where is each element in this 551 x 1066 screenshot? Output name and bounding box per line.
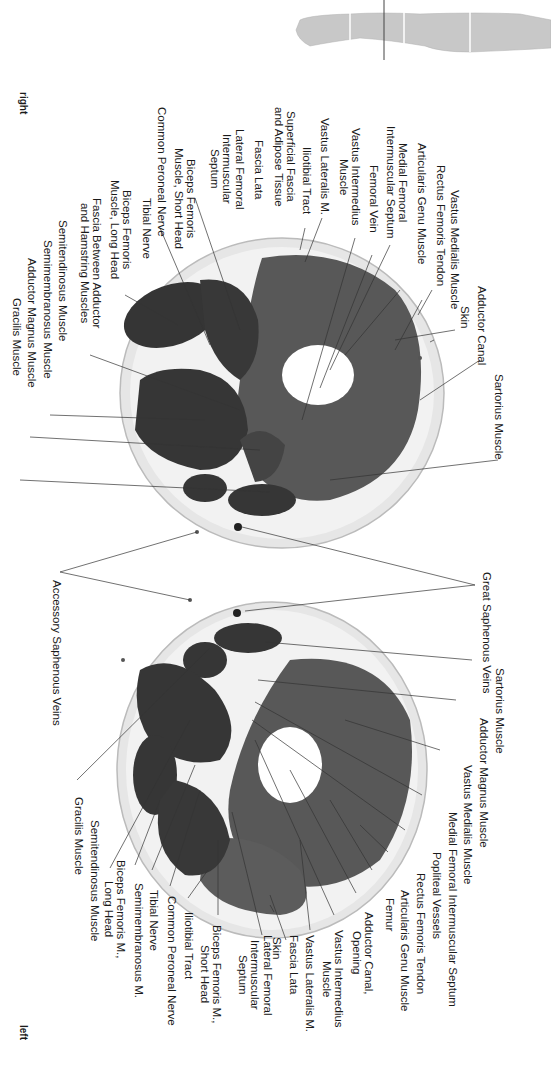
- label-lower-medial-femoral-septum: Medial Femoral Intermuscular Septum: [446, 812, 459, 1007]
- label-great-saphenous-veins: Great Saphenous Veins: [480, 572, 493, 693]
- body-silhouette-icon: [296, 0, 551, 60]
- label-lower-biceps-short: Biceps Femoris M., Short Head: [198, 925, 223, 1023]
- label-lower-common-peroneal: Common Peroneal Nerve: [165, 896, 178, 1026]
- label-semitendinosus: Semitendinosus Muscle: [56, 220, 69, 341]
- label-articularis-genu: Articularis Genu Muscle: [415, 143, 428, 264]
- label-lower-gracilis: Gracilis Muscle: [72, 797, 85, 875]
- lower-cross-section: [117, 598, 427, 938]
- label-accessory-saphenous-veins: Accessory Saphenous Veins: [50, 580, 63, 726]
- label-lower-rectus-femoris-tendon: Rectus Femoris Tendon: [414, 873, 427, 994]
- label-lower-sartorius: Sartorius Muscle: [493, 668, 506, 754]
- orientation-right-label: right: [18, 92, 29, 114]
- label-iliotibial-tract: Iliotibial Tract: [300, 147, 313, 214]
- label-semimembranosus: Semimembranosus Muscle: [41, 240, 54, 379]
- label-lower-popliteal-vessels: Popliteal Vessels: [430, 852, 443, 939]
- label-sartorius: Sartorius Muscle: [492, 374, 505, 460]
- label-lower-vastus-medialis: Vastus Medialis Muscle: [461, 765, 474, 884]
- label-lower-tibial-nerve: Tibial Nerve: [147, 890, 160, 951]
- label-lower-vastus-intermedius: Vastus Intermedius Muscle: [320, 930, 345, 1028]
- label-adductor-canal: Adductor Canal: [475, 286, 488, 365]
- label-lower-articularis-genu: Articularis Genu Muscle: [398, 890, 411, 1011]
- label-lower-adductor-magnus: Adductor Magnus Muscle: [477, 718, 490, 848]
- label-fascia-between: Fascia Between Adductor and Hamstring Mu…: [78, 198, 103, 328]
- label-tibial-nerve: Tibial Nerve: [140, 198, 153, 259]
- label-lower-biceps-long: Biceps Femoris M., Long Head: [102, 860, 127, 958]
- label-femoral-vein: Femoral Vein: [367, 165, 380, 233]
- label-superficial-fascia: Superficial Fascia and Adipose Tissue: [272, 107, 297, 207]
- label-medial-femoral-septum: Medial Femoral Intermuscular Septum: [384, 126, 409, 239]
- label-adductor-magnus: Adductor Magnus Muscle: [25, 258, 38, 388]
- label-biceps-long: Biceps Femoris Muscle, Long Head: [108, 180, 133, 279]
- label-vastus-lateralis: Vastus Lateralis M.: [318, 118, 331, 215]
- label-rectus-femoris-tendon: Rectus Femoris Tendon: [434, 165, 447, 286]
- label-lateral-femoral-septum: Lateral Femoral Intermuscular Septum: [208, 129, 246, 210]
- label-fascia-lata: Fascia Lata: [252, 140, 265, 199]
- label-lower-semimembranosus: Semimembranosus M.: [132, 883, 145, 998]
- label-lower-adductor-canal-opening: Adductor Canal, Opening: [350, 912, 375, 994]
- label-lower-semitendinosus: Semitendinosus Muscle: [88, 820, 101, 941]
- label-vastus-medialis: Vastus Medialis Muscle: [448, 190, 461, 309]
- label-biceps-short: Biceps Femoris Muscle, Short Head: [172, 148, 197, 249]
- upper-cross-section: [115, 238, 444, 548]
- label-vastus-intermedius: Vastus Intermedius Muscle: [337, 128, 362, 226]
- label-lower-femur: Femur: [383, 898, 396, 931]
- label-common-peroneal: Common Peroneal Nerve: [155, 107, 168, 237]
- label-lower-iliotibial-tract: Iliotibial Tract: [182, 912, 195, 979]
- label-skin: Skin: [458, 306, 471, 328]
- orientation-left-label: left: [18, 1025, 29, 1040]
- label-lower-lateral-femoral-septum: Lateral Femoral Intermuscular Septum: [236, 935, 274, 1016]
- label-gracilis: Gracilis Muscle: [10, 298, 23, 376]
- label-lower-vastus-lateralis: Vastus Lateralis M.: [303, 935, 316, 1032]
- label-lower-fascia-lata: Fascia Lata: [287, 935, 300, 994]
